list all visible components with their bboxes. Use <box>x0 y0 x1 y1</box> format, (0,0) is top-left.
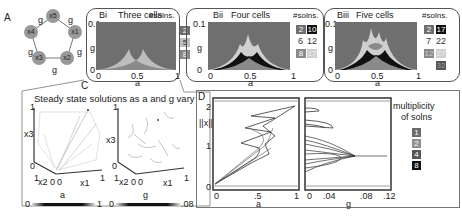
y-label-bi: g <box>90 44 95 53</box>
d-left-x-tick-2: 1 <box>294 192 299 201</box>
x-tick-biii-2: 1 <box>416 72 421 81</box>
legend-swatch: 2 <box>296 25 306 34</box>
x-tick-biii-0: 0 <box>335 72 340 81</box>
edge-label-g: g <box>52 66 57 75</box>
legend-swatch: 17 <box>436 25 446 34</box>
panel-letter-d: D <box>198 92 205 101</box>
y-top-bii: 0.1 <box>193 20 206 29</box>
steady-state-3d-plot-a <box>30 104 110 184</box>
norm-vs-g-plot <box>305 98 391 190</box>
x-label-bii: a <box>248 79 253 88</box>
panel-title-bii: Four cells <box>231 11 270 20</box>
colorbar-g-min: 0 <box>109 200 114 209</box>
d-y-tick-1: 1 <box>206 142 211 151</box>
d-right-x-label: g <box>346 200 351 209</box>
legend-value: 22 <box>436 37 446 46</box>
panel-letter-bii: Bii <box>213 11 223 20</box>
legend-title-biii: #solns. <box>422 11 447 20</box>
colorbar-a-min: 0 <box>25 200 30 209</box>
legend-value: 12 <box>307 37 317 46</box>
y-bottom-biii: 0 <box>328 66 333 75</box>
d-legend-title-2: of solns <box>401 113 432 122</box>
multiplicity-swatch-1: 1 <box>412 128 421 137</box>
panel-title-biii: Five cells <box>356 11 394 20</box>
axis-zero: 0 <box>138 178 143 187</box>
axis-one: 1 <box>184 174 189 183</box>
axis-zero: 0 <box>50 178 55 187</box>
colorbar-g <box>116 203 180 206</box>
node-x3: x3 <box>32 51 46 65</box>
d-right-x-tick-1: .04 <box>323 192 336 201</box>
d-left-x-label: a <box>256 200 261 209</box>
panel-letter-c: C <box>81 81 88 90</box>
colorbar-a <box>32 203 95 206</box>
legend-value: 7 <box>426 37 431 46</box>
axis-x3: x3 <box>106 136 116 145</box>
d-left-x-tick-0: 0 <box>214 192 219 201</box>
multiplicity-swatch-8: 8 <box>412 161 421 170</box>
d-right-x-tick-0: 0 <box>307 192 312 201</box>
node-x1: x1 <box>68 25 82 39</box>
axis-zero: 0 <box>112 162 117 171</box>
colorbar-g-max: .08 <box>181 200 194 209</box>
bifurcation-heatmap-biii <box>335 22 417 70</box>
y-bottom-bi: 0 <box>90 66 95 75</box>
axis-one: 1 <box>113 103 118 112</box>
axis-x2: x2 <box>119 178 129 187</box>
node-x5: x5 <box>46 9 60 23</box>
edge-label-g: g <box>68 16 73 25</box>
axis-one: 1 <box>30 103 35 112</box>
axis-x3: x3 <box>24 130 34 139</box>
legend-swatch: 8 <box>296 49 306 58</box>
d-legend-title-1: multiplicity <box>393 102 435 111</box>
y-label-bii: g <box>197 44 202 53</box>
steady-state-3d-plot-g <box>116 104 196 184</box>
d-y-tick-2: 2 <box>206 103 211 112</box>
axis-x2: x2 <box>38 178 48 187</box>
axis-one: 1 <box>100 174 105 183</box>
d-y-tick-0: 0 <box>206 183 211 192</box>
legend-title-bii: #solns. <box>293 11 318 20</box>
legend-swatch: 10 <box>307 25 317 34</box>
x-label-biii: a <box>375 79 380 88</box>
bifurcation-heatmap-bi <box>96 22 176 70</box>
legend-swatch: 32 <box>436 61 446 70</box>
bifurcation-heatmap-bii <box>208 22 290 70</box>
panel-letter-biii: Biii <box>337 11 349 20</box>
d-right-x-tick-2: .08 <box>360 192 373 201</box>
multiplicity-swatch-4: 4 <box>412 150 421 159</box>
colorbar-a-label: a <box>60 191 65 200</box>
node-x4: x4 <box>24 25 38 39</box>
edge-label-g: g <box>28 48 33 57</box>
node-x2: x2 <box>60 51 74 65</box>
legend-title-bi: #solns. <box>149 11 174 20</box>
d-right-x-tick-3: .12 <box>383 192 396 201</box>
axis-zero: 0 <box>30 162 35 171</box>
axis-zero: 0 <box>57 178 62 187</box>
y-bottom-bii: 0 <box>197 66 202 75</box>
legend-swatch: 27 <box>436 49 446 58</box>
legend-swatch: 2 <box>424 25 434 34</box>
x-tick-bii-2: 1 <box>291 72 296 81</box>
edge-label-g: g <box>77 48 82 57</box>
colorbar-a-max: 1 <box>97 200 102 209</box>
d-y-label: ||x|| <box>199 119 213 128</box>
panel-letter-a: A <box>4 13 11 22</box>
legend-swatch: 12 <box>424 49 434 58</box>
multiplicity-swatch-2: 2 <box>412 139 421 148</box>
axis-x1: x1 <box>163 179 173 188</box>
edge-label-g: g <box>38 16 43 25</box>
axis-zero: 0 <box>131 178 136 187</box>
legend-swatch: 17 <box>307 49 317 58</box>
colorbar-g-label: g <box>143 191 148 200</box>
legend-value: 6 <box>298 37 303 46</box>
y-label-biii: g <box>328 44 333 53</box>
axis-x1: x1 <box>80 179 90 188</box>
norm-vs-a-plot <box>213 98 299 190</box>
